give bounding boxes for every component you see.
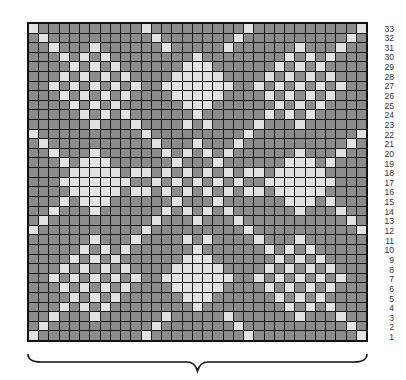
chart-cell	[152, 24, 161, 33]
chart-cell	[90, 235, 99, 244]
chart-cell	[244, 101, 253, 110]
chart-cell	[213, 216, 222, 225]
chart-cell	[357, 226, 366, 235]
chart-cell	[244, 158, 253, 167]
chart-cell	[316, 139, 325, 148]
chart-cell	[152, 149, 161, 158]
chart-cell	[336, 24, 345, 33]
chart-cell	[275, 72, 284, 81]
chart-cell	[316, 72, 325, 81]
chart-cell	[203, 293, 212, 302]
chart-cell	[285, 110, 294, 119]
chart-cell	[244, 235, 253, 244]
chart-cell	[193, 120, 202, 129]
chart-cell	[203, 139, 212, 148]
chart-cell	[295, 34, 304, 43]
chart-cell	[213, 101, 222, 110]
chart-cell	[357, 139, 366, 148]
chart-cell	[29, 34, 38, 43]
chart-cell	[213, 82, 222, 91]
chart-cell	[295, 274, 304, 283]
chart-cell	[183, 226, 192, 235]
chart-cell	[39, 322, 48, 331]
chart-cell	[285, 303, 294, 312]
chart-cell	[265, 255, 274, 264]
row-number-label: 15	[370, 198, 394, 208]
chart-cell	[121, 322, 130, 331]
chart-cell	[49, 91, 58, 100]
chart-cell	[70, 110, 79, 119]
chart-cell	[275, 43, 284, 52]
chart-cell	[131, 110, 140, 119]
chart-cell	[244, 168, 253, 177]
chart-cell	[213, 110, 222, 119]
chart-cell	[172, 197, 181, 206]
chart-cell	[90, 120, 99, 129]
chart-cell	[80, 139, 89, 148]
chart-cell	[80, 158, 89, 167]
chart-cell	[357, 274, 366, 283]
chart-cell	[306, 197, 315, 206]
chart-cell	[295, 226, 304, 235]
chart-cell	[347, 255, 356, 264]
chart-cell	[234, 24, 243, 33]
row-number-label: 4	[370, 304, 394, 314]
chart-cell	[70, 216, 79, 225]
chart-cell	[234, 158, 243, 167]
chart-cell	[357, 331, 366, 340]
chart-cell	[336, 53, 345, 62]
chart-cell	[131, 255, 140, 264]
chart-cell	[111, 187, 120, 196]
colorwork-chart-grid	[27, 22, 368, 342]
row-number-label: 2	[370, 323, 394, 333]
chart-cell	[121, 255, 130, 264]
chart-cell	[285, 43, 294, 52]
chart-cell	[29, 255, 38, 264]
chart-cell	[234, 101, 243, 110]
chart-cell	[347, 110, 356, 119]
chart-cell	[70, 34, 79, 43]
chart-cell	[326, 53, 335, 62]
chart-cell	[152, 187, 161, 196]
chart-cell	[203, 274, 212, 283]
chart-cell	[326, 91, 335, 100]
chart-cell	[142, 120, 151, 129]
row-number-label: 10	[370, 246, 394, 256]
chart-cell	[193, 293, 202, 302]
chart-cell	[234, 255, 243, 264]
chart-cell	[357, 120, 366, 129]
chart-cell	[203, 43, 212, 52]
chart-cell	[131, 178, 140, 187]
chart-cell	[121, 43, 130, 52]
chart-cell	[203, 158, 212, 167]
chart-cell	[213, 331, 222, 340]
chart-cell	[101, 283, 110, 292]
chart-cell	[224, 274, 233, 283]
chart-cell	[111, 245, 120, 254]
chart-cell	[162, 178, 171, 187]
chart-cell	[142, 245, 151, 254]
chart-cell	[193, 226, 202, 235]
chart-cell	[336, 72, 345, 81]
chart-cell	[101, 303, 110, 312]
chart-cell	[142, 130, 151, 139]
chart-cell	[316, 53, 325, 62]
chart-cell	[111, 207, 120, 216]
chart-cell	[234, 293, 243, 302]
chart-cell	[254, 130, 263, 139]
chart-cell	[29, 62, 38, 71]
chart-cell	[316, 207, 325, 216]
chart-cell	[142, 91, 151, 100]
chart-cell	[265, 82, 274, 91]
chart-cell	[162, 245, 171, 254]
chart-cell	[316, 197, 325, 206]
chart-cell	[39, 168, 48, 177]
chart-cell	[121, 245, 130, 254]
chart-cell	[172, 207, 181, 216]
chart-cell	[336, 283, 345, 292]
chart-cell	[234, 303, 243, 312]
chart-cell	[90, 43, 99, 52]
chart-cell	[39, 53, 48, 62]
chart-cell	[347, 235, 356, 244]
chart-cell	[152, 235, 161, 244]
